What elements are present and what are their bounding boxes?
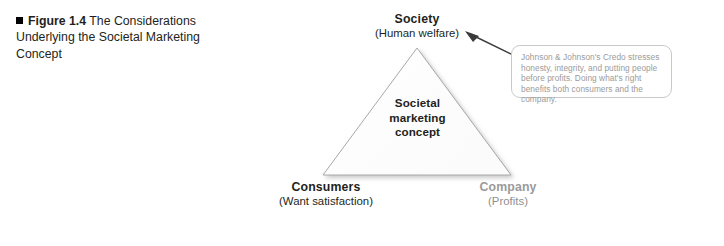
vertex-consumers-subtitle: (Want satisfaction) [246, 194, 406, 208]
figure-container: Figure 1.4 The Considerations Underlying… [0, 0, 724, 246]
credo-callout-box: Johnson & Johnson's Credo stresses hones… [511, 45, 672, 98]
figure-caption: Figure 1.4 The Considerations Underlying… [16, 13, 231, 62]
vertex-company-subtitle: (Profits) [428, 194, 588, 208]
credo-callout-text: Johnson & Johnson's Credo stresses hones… [521, 52, 663, 105]
vertex-company-title: Company [428, 180, 588, 194]
center-line-3: concept [300, 125, 535, 140]
square-bullet-icon [16, 17, 23, 24]
triangle-center-label: Societal marketing concept [300, 96, 535, 140]
center-line-1: Societal [300, 96, 535, 111]
center-line-2: marketing [300, 111, 535, 126]
vertex-label-consumers: Consumers (Want satisfaction) [246, 180, 406, 208]
vertex-society-title: Society [337, 12, 497, 26]
vertex-label-company: Company (Profits) [428, 180, 588, 208]
vertex-consumers-title: Consumers [246, 180, 406, 194]
figure-number: Figure 1.4 [28, 14, 86, 28]
